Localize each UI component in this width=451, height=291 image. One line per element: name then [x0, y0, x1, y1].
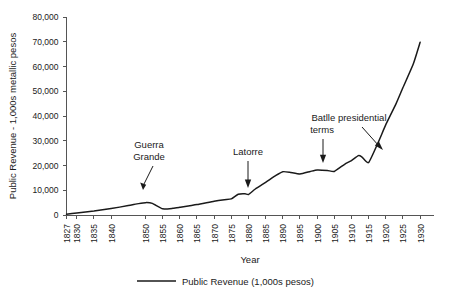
x-tick-label: 1830 [72, 224, 82, 243]
y-tick-label: 50,000 [33, 86, 59, 96]
x-axis-ticks: 1827183018351840185018551860186518701875… [62, 215, 426, 243]
annotation-batlle-line2: terms [310, 124, 334, 135]
y-tick-label: 60,000 [33, 62, 59, 72]
x-tick-label: 1835 [89, 224, 99, 243]
x-tick-label: 1920 [381, 224, 391, 243]
x-tick-label: 1915 [364, 224, 374, 243]
x-tick-label: 1895 [295, 224, 305, 243]
y-tick-label: 40,000 [33, 111, 59, 121]
line-public-revenue [67, 42, 421, 214]
annotation-batlle: Batlle presidential terms [310, 112, 386, 163]
chart-legend: Public Revenue (1,000s pesos) [137, 276, 314, 287]
y-tick-label: 30,000 [33, 136, 59, 146]
x-tick-label: 1870 [210, 224, 220, 243]
annotation-latorre: Latorre [233, 146, 263, 188]
x-tick-label: 1885 [261, 224, 271, 243]
x-tick-label: 1860 [175, 224, 185, 243]
annotation-guerra-grande-arrow-line [143, 166, 153, 186]
x-tick-label: 1840 [107, 224, 117, 243]
legend-label-public-revenue: Public Revenue (1,000s pesos) [182, 276, 314, 287]
x-tick-label: 1910 [347, 224, 357, 243]
x-tick-label: 1900 [313, 224, 323, 243]
annotation-latorre-arrow-head [245, 180, 251, 188]
x-tick-label: 1890 [278, 224, 288, 243]
chart-figure: Public Revenue - 1,000s metallic pesos 0… [0, 0, 451, 291]
y-tick-label: 80,000 [33, 12, 59, 22]
y-tick-label: 20,000 [33, 161, 59, 171]
x-tick-label: 1875 [227, 224, 237, 243]
x-tick-label: 1905 [330, 224, 340, 243]
annotation-batlle-line1: Batlle presidential [312, 112, 387, 123]
annotation-guerra-grande-line1: Guerra [134, 139, 164, 150]
annotation-latorre-label: Latorre [233, 146, 263, 157]
y-axis-title: Public Revenue - 1,000s metallic pesos [7, 33, 18, 200]
x-axis-title: Year [240, 254, 259, 265]
x-tick-label: 1880 [244, 224, 254, 243]
chart-canvas: Public Revenue - 1,000s metallic pesos 0… [0, 0, 451, 291]
annotation-guerra-grande: Guerra Grande [133, 139, 165, 190]
annotation-guerra-grande-line2: Grande [133, 151, 165, 162]
y-tick-label: 10,000 [33, 185, 59, 195]
y-axis-ticks: 010,00020,00030,00040,00050,00060,00070,… [33, 12, 67, 220]
x-tick-label: 1925 [398, 224, 408, 243]
x-tick-label: 1827 [62, 224, 72, 243]
y-tick-label: 0 [54, 210, 59, 220]
x-tick-label: 1855 [158, 224, 168, 243]
annotation-batlle-arrow-a-head [320, 155, 326, 163]
x-tick-label: 1930 [416, 224, 426, 243]
x-tick-label: 1865 [192, 224, 202, 243]
annotation-guerra-grande-arrow-head [140, 182, 146, 190]
x-tick-label: 1850 [141, 224, 151, 243]
data-series-group [67, 42, 421, 214]
y-tick-label: 70,000 [33, 37, 59, 47]
annotation-batlle-arrow-b-line [362, 127, 379, 146]
y-axis-title-group: Public Revenue - 1,000s metallic pesos [7, 33, 18, 200]
